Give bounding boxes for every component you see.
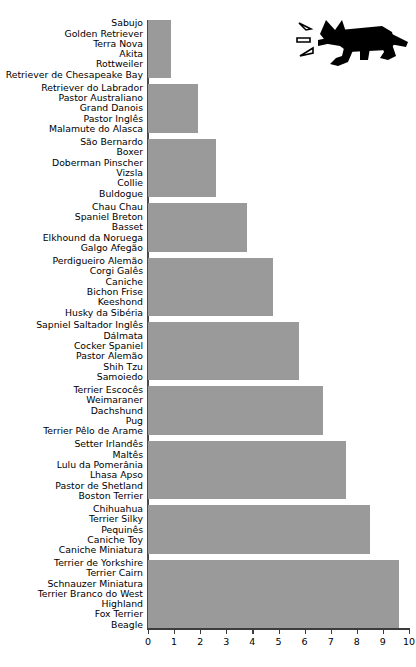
bar	[148, 20, 171, 78]
breed-label-group: Terrier EscocêsWeimaranerDachshundPugTer…	[0, 386, 143, 435]
x-tick-label: 4	[240, 636, 264, 647]
bar	[148, 441, 346, 499]
breed-label: Terrier Pêlo de Arame	[0, 426, 143, 436]
breed-label: Buldogue	[0, 189, 143, 199]
breed-label: Retriever de Chesapeake Bay	[0, 70, 143, 80]
x-tick-label: 7	[319, 636, 343, 647]
bar-group: SabujoGolden RetrieverTerra NovaAkitaRot…	[0, 20, 416, 78]
x-tick-label: 9	[371, 636, 395, 647]
bar	[148, 386, 323, 435]
x-axis: 012345678910	[0, 628, 416, 667]
x-tick-label: 5	[267, 636, 291, 647]
x-tick-mark	[357, 628, 358, 634]
bar-group: Retriever do LabradorPastor AustralianoG…	[0, 84, 416, 133]
bar	[148, 84, 198, 133]
x-tick-label: 0	[136, 636, 160, 647]
breed-label-group: Retriever do LabradorPastor AustralianoG…	[0, 84, 143, 133]
breed-label: Terrier Cairn	[0, 568, 143, 578]
bar-chart: SabujoGolden RetrieverTerra NovaAkitaRot…	[0, 0, 416, 667]
breed-label-group: ChihuahuaTerrier SilkyPequinêsCaniche To…	[0, 505, 143, 554]
bar-group: Sapniel Saltador InglêsDálmataCocker Spa…	[0, 322, 416, 380]
x-tick-mark	[305, 628, 306, 634]
breed-label-group: SabujoGolden RetrieverTerra NovaAkitaRot…	[0, 20, 143, 78]
x-tick-mark	[409, 628, 410, 634]
breed-label: Caniche Miniatura	[0, 545, 143, 555]
breed-label-group: São BernardoBoxerDoberman PinscherVizsla…	[0, 139, 143, 197]
bar	[148, 139, 216, 197]
x-tick-mark	[331, 628, 332, 634]
x-tick-mark	[252, 628, 253, 634]
bar	[148, 322, 299, 380]
bar-group: Terrier de YorkshireTerrier CairnSchnauz…	[0, 560, 416, 628]
x-tick-label: 10	[397, 636, 416, 647]
breed-label-group: Perdigueiro AlemãoCorgi GalêsCanicheBich…	[0, 258, 143, 316]
bar-group: Setter IrlandêsMaltêsLulu da PomerâniaLh…	[0, 441, 416, 499]
x-tick-mark	[279, 628, 280, 634]
breed-label: Galgo Afegão	[0, 243, 143, 253]
x-tick-mark	[200, 628, 201, 634]
breed-label: Boston Terrier	[0, 491, 143, 501]
breed-label-group: Setter IrlandêsMaltêsLulu da PomerâniaLh…	[0, 441, 143, 499]
x-tick-label: 2	[188, 636, 212, 647]
x-tick-label: 8	[345, 636, 369, 647]
plot-area: SabujoGolden RetrieverTerra NovaAkitaRot…	[0, 20, 416, 628]
bar	[148, 505, 370, 554]
breed-label-group: Sapniel Saltador InglêsDálmataCocker Spa…	[0, 322, 143, 380]
x-tick-mark	[148, 628, 149, 634]
breed-label: Husky da Sibéria	[0, 308, 143, 318]
bar-group: Chau ChauSpaniel BretonBassetElkhound da…	[0, 203, 416, 252]
bar	[148, 258, 273, 316]
bar-group: São BernardoBoxerDoberman PinscherVizsla…	[0, 139, 416, 197]
x-tick-mark	[226, 628, 227, 634]
bar	[148, 560, 399, 628]
breed-label: Samoiedo	[0, 372, 143, 382]
breed-label-group: Terrier de YorkshireTerrier CairnSchnauz…	[0, 560, 143, 628]
bar-group: Terrier EscocêsWeimaranerDachshundPugTer…	[0, 386, 416, 435]
breed-label: Lhasa Apso	[0, 470, 143, 480]
x-tick-label: 6	[293, 636, 317, 647]
breed-label-group: Chau ChauSpaniel BretonBassetElkhound da…	[0, 203, 143, 252]
breed-label: Terrier Silky	[0, 514, 143, 524]
x-tick-mark	[174, 628, 175, 634]
bar-group: ChihuahuaTerrier SilkyPequinêsCaniche To…	[0, 505, 416, 554]
breed-label: Malamute do Alasca	[0, 124, 143, 134]
x-tick-label: 3	[214, 636, 238, 647]
bar	[148, 203, 247, 252]
x-tick-label: 1	[162, 636, 186, 647]
bar-group: Perdigueiro AlemãoCorgi GalêsCanicheBich…	[0, 258, 416, 316]
breed-label: Dachshund	[0, 406, 143, 416]
x-tick-mark	[383, 628, 384, 634]
